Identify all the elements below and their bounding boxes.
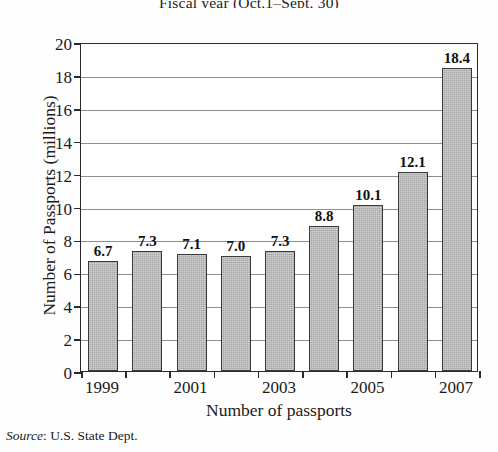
x-axis-tick [258,371,260,378]
bar [88,261,118,371]
y-axis-tick [74,241,81,243]
gridline [81,143,477,144]
bar [221,256,251,371]
x-axis-tick [214,371,216,378]
bar-value-label: 12.1 [383,155,443,170]
y-axis-tick-label: 8 [38,232,72,252]
x-axis-tick-label: 2001 [161,378,221,398]
y-axis-tick [74,109,81,111]
x-axis-tick-label: 1999 [72,378,132,398]
bar-value-label: 18.4 [427,51,487,66]
x-axis-tick [479,371,481,378]
x-axis-tick [346,371,348,378]
x-axis-tick [302,371,304,378]
y-axis-tick [74,306,81,308]
y-axis-tick-label: 14 [38,134,72,154]
y-axis-tick [74,372,81,374]
x-axis-tick [125,371,127,378]
bar [177,254,207,371]
bar [353,205,383,371]
y-axis-tick [74,175,81,177]
x-axis-tick [81,371,83,378]
y-axis-tick-label: 0 [38,364,72,384]
plot-area: 024681012141618206.77.37.17.07.38.810.11… [80,43,478,372]
y-axis-tick [74,43,81,45]
y-axis-tick [74,76,81,78]
bar [309,226,339,371]
source-note: Source: U.S. State Dept. [6,428,138,444]
y-axis-tick-label: 4 [38,298,72,318]
x-axis-title: Number of passports [80,400,478,421]
y-axis-tick-label: 16 [38,101,72,121]
x-axis-tick [435,371,437,378]
source-label: Source [6,428,43,443]
bar-value-label: 10.1 [338,188,398,203]
chart-figure: Fiscal year (Oct.1–Sept. 30) Number of P… [0,0,498,452]
chart-title: Fiscal year (Oct.1–Sept. 30) [0,0,498,8]
x-axis-tick-label: 2005 [337,378,397,398]
x-axis-tick [169,371,171,378]
x-axis-tick-label: 2003 [249,378,309,398]
y-axis-tick [74,142,81,144]
bar [398,172,428,371]
bar-value-label: 8.8 [294,209,354,224]
bar-value-label: 7.3 [250,234,310,249]
y-axis-tick-label: 20 [38,35,72,55]
source-text: U.S. State Dept. [50,428,137,443]
y-axis-tick-label: 18 [38,68,72,88]
gridline [81,110,477,111]
y-axis-tick-label: 12 [38,167,72,187]
y-axis-tick-label: 6 [38,265,72,285]
y-axis-tick-label: 10 [38,200,72,220]
bar [132,251,162,371]
y-axis-tick [74,208,81,210]
y-axis-tick [74,274,81,276]
gridline [81,77,477,78]
bar [442,68,472,371]
bar [265,251,295,371]
x-axis-tick-label: 2007 [426,378,486,398]
x-axis-tick [391,371,393,378]
y-axis-tick-label: 2 [38,331,72,351]
y-axis-tick [74,339,81,341]
